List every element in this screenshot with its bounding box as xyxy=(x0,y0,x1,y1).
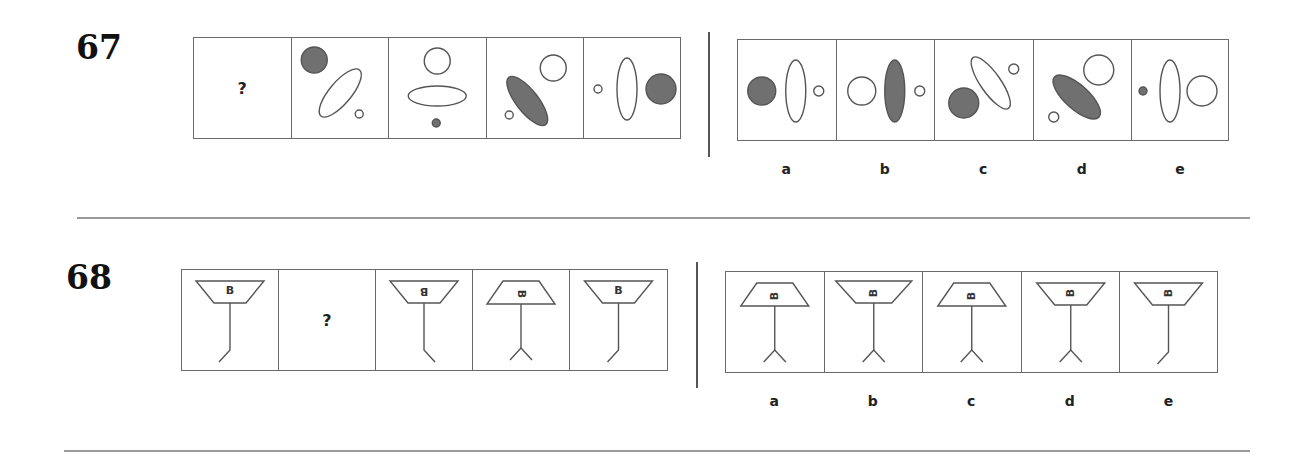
outline-ellipse-icon xyxy=(617,58,637,120)
question-number-68: 68 xyxy=(66,261,112,294)
option-label-a[interactable]: a xyxy=(737,161,836,177)
option-label-d[interactable]: d xyxy=(1033,161,1132,177)
outline-circle-icon xyxy=(1009,64,1019,74)
shapes-figure xyxy=(292,38,389,138)
lamp-figure: B xyxy=(1120,272,1217,372)
lamp-figure: B xyxy=(923,272,1021,372)
section-separator xyxy=(77,217,1250,219)
p68-divider xyxy=(696,262,698,388)
p68-option-c[interactable]: B xyxy=(923,272,1022,372)
shapes-figure xyxy=(935,40,1033,140)
shapes-figure xyxy=(487,38,584,138)
p68-option-b[interactable]: B xyxy=(825,272,924,372)
lamp-figure: B xyxy=(182,270,278,370)
filled-circle-icon xyxy=(1139,87,1147,95)
p68-option-e[interactable]: B xyxy=(1120,272,1217,372)
p68-option-a[interactable]: B xyxy=(726,272,825,372)
letter-b-label: B xyxy=(614,284,622,297)
p67-q-cell-2 xyxy=(292,38,390,138)
section-separator xyxy=(64,450,1250,452)
outline-circle-icon xyxy=(1048,112,1058,122)
shapes-figure xyxy=(584,38,680,138)
puzzle-68-question-strip: B ? B B B xyxy=(181,269,668,371)
option-label-a[interactable]: a xyxy=(725,393,824,409)
outline-circle-icon xyxy=(914,86,924,96)
puzzle-68-answer-strip: B B B B B xyxy=(725,271,1218,373)
p67-option-d[interactable] xyxy=(1034,40,1133,140)
outline-circle-icon xyxy=(847,77,875,105)
outline-circle-icon xyxy=(814,86,824,96)
puzzle-67-answer-strip xyxy=(737,39,1229,141)
filled-circle-icon xyxy=(949,88,979,118)
option-label-d[interactable]: d xyxy=(1021,393,1120,409)
p67-option-c[interactable] xyxy=(935,40,1034,140)
outline-circle-icon xyxy=(355,110,363,118)
filled-circle-icon xyxy=(301,47,327,73)
p67-option-e[interactable] xyxy=(1132,40,1228,140)
letter-b-label: B xyxy=(1162,289,1175,297)
option-label-b[interactable]: b xyxy=(824,393,923,409)
p68-option-labels: a b c d e xyxy=(725,393,1218,409)
p68-q-cell-5: B xyxy=(570,270,667,370)
option-label-c[interactable]: c xyxy=(934,161,1033,177)
outline-ellipse-icon xyxy=(408,86,466,106)
option-label-b[interactable]: b xyxy=(836,161,935,177)
lamp-figure: B xyxy=(376,270,472,370)
outline-circle-icon xyxy=(594,85,602,93)
p68-q-cell-4: B xyxy=(473,270,570,370)
outline-ellipse-icon xyxy=(786,60,806,122)
letter-b-label: B xyxy=(226,284,234,297)
shapes-figure xyxy=(389,38,486,138)
option-label-e[interactable]: e xyxy=(1131,161,1229,177)
p68-q-cell-1: B xyxy=(182,270,279,370)
outline-circle-icon xyxy=(540,55,566,81)
filled-ellipse-icon xyxy=(1046,68,1107,126)
letter-b-label: B xyxy=(420,285,428,298)
shapes-figure xyxy=(1132,40,1228,140)
outline-circle-icon xyxy=(505,111,513,119)
filled-circle-icon xyxy=(432,119,440,127)
letter-b-label: B xyxy=(768,292,781,300)
filled-ellipse-icon xyxy=(884,60,904,122)
question-mark: ? xyxy=(279,311,375,330)
shapes-figure xyxy=(1034,40,1132,140)
p68-q-cell-3: B xyxy=(376,270,473,370)
p67-option-a[interactable] xyxy=(738,40,837,140)
lamp-figure: B xyxy=(570,270,667,370)
outline-ellipse-icon xyxy=(1160,60,1180,122)
p67-q-cell-1: ? xyxy=(194,38,292,138)
puzzle-67-question-strip: ? xyxy=(193,37,681,139)
filled-circle-icon xyxy=(646,74,676,104)
lamp-figure: B xyxy=(473,270,569,370)
p67-q-cell-5 xyxy=(584,38,680,138)
outline-circle-icon xyxy=(1083,55,1113,85)
p67-option-labels: a b c d e xyxy=(737,161,1229,177)
shapes-figure xyxy=(837,40,935,140)
question-mark: ? xyxy=(194,79,291,98)
lamp-figure: B xyxy=(1022,272,1120,372)
p68-q-cell-2: ? xyxy=(279,270,376,370)
p67-q-cell-4 xyxy=(487,38,585,138)
p67-divider xyxy=(708,32,710,157)
p67-option-b[interactable] xyxy=(837,40,936,140)
letter-b-label: B xyxy=(515,290,528,298)
option-label-e[interactable]: e xyxy=(1119,393,1218,409)
letter-b-label: B xyxy=(866,289,879,297)
outline-circle-icon xyxy=(424,48,450,74)
p68-option-d[interactable]: B xyxy=(1022,272,1121,372)
question-number-67: 67 xyxy=(76,31,122,64)
letter-b-label: B xyxy=(1063,289,1076,297)
lamp-figure: B xyxy=(825,272,923,372)
filled-circle-icon xyxy=(748,77,776,105)
outline-circle-icon xyxy=(1187,76,1217,106)
p67-q-cell-3 xyxy=(389,38,487,138)
shapes-figure xyxy=(738,40,836,140)
letter-b-label: B xyxy=(965,292,978,300)
lamp-figure: B xyxy=(726,272,824,372)
option-label-c[interactable]: c xyxy=(922,393,1021,409)
